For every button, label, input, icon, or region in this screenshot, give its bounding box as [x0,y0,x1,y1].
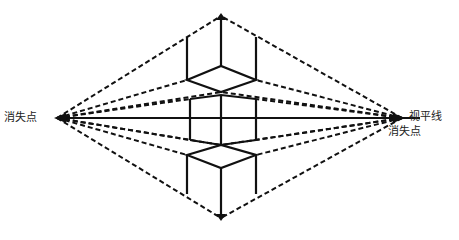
bottom-apex-arrow-icon [216,214,226,221]
horizon-line-label: 视平线 [409,110,442,123]
right-vanishing-point-icon [393,113,405,123]
right-vanishing-point-label: 消失点 [388,125,421,138]
perspective-diagram: 消失点 视平线 消失点 [0,0,459,240]
box-on-horizon [190,95,256,145]
top-apex-arrow-icon [216,13,226,20]
diagram-canvas [0,0,459,240]
box-below-horizon [187,145,256,218]
left-vanishing-point-label: 消失点 [4,111,37,124]
box-above-horizon [187,16,256,92]
left-vanishing-point-icon [54,113,66,123]
